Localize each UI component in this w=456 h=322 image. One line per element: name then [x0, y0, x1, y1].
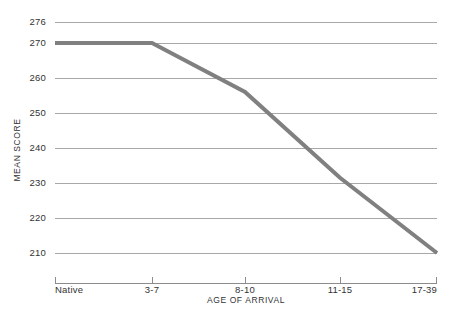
y-axis-tick-label: 270: [30, 37, 46, 48]
x-axis-title: AGE OF ARRIVAL: [207, 295, 285, 305]
y-axis-title: MEAN SCORE: [12, 118, 22, 181]
y-axis-tick-label: 240: [30, 142, 46, 153]
y-axis-tick-label: 230: [30, 177, 46, 188]
y-axis-tick-label: 210: [30, 247, 46, 258]
y-axis-tick-label: 276: [30, 16, 46, 27]
x-axis-tick-label: 17-39: [412, 284, 437, 295]
y-axis-tick-label: 260: [30, 72, 46, 83]
chart-container: 276270260250240230220210 Native3-78-1011…: [0, 0, 456, 322]
x-axis-tick-label: Native: [55, 284, 83, 295]
chart-background: [0, 0, 456, 322]
x-axis-tick-label: 3-7: [145, 284, 159, 295]
line-chart: 276270260250240230220210 Native3-78-1011…: [0, 0, 456, 322]
x-axis-tick-label: 8-10: [235, 284, 255, 295]
y-axis-tick-label: 220: [30, 212, 46, 223]
y-axis-tick-label: 250: [30, 107, 46, 118]
x-axis-tick-label: 11-15: [328, 284, 353, 295]
